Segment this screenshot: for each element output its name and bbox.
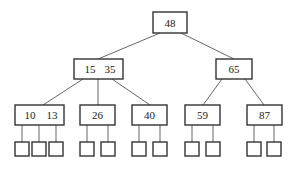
empty-leaf — [185, 142, 199, 156]
empty-leaf — [49, 142, 63, 156]
node-key: 35 — [105, 63, 117, 75]
empty-leaf — [15, 142, 29, 156]
root-key: 48 — [165, 17, 177, 29]
node-key: 26 — [92, 109, 104, 121]
node-10-13: 10 13 — [15, 105, 64, 125]
empty-leaf — [101, 142, 115, 156]
empty-leaf — [132, 142, 146, 156]
b-tree-diagram: 48 15 35 65 10 13 26 40 59 87 — [0, 0, 295, 174]
node-key: 15 — [85, 63, 97, 75]
node-key: 13 — [47, 109, 59, 121]
edge-65-87 — [245, 79, 264, 105]
edge-root-left — [98, 33, 160, 59]
empty-leaf — [32, 142, 46, 156]
empty-leaf — [247, 142, 261, 156]
edge-root-right — [181, 33, 234, 59]
empty-leaf — [267, 142, 281, 156]
node-87: 87 — [247, 105, 282, 125]
node-59: 59 — [185, 105, 220, 125]
node-key: 87 — [259, 109, 271, 121]
node-26: 26 — [80, 105, 115, 125]
node-key: 65 — [229, 63, 241, 75]
root-node: 48 — [153, 12, 187, 33]
node-40: 40 — [132, 105, 167, 125]
node-65: 65 — [216, 59, 252, 79]
node-15-35: 15 35 — [74, 59, 123, 79]
edge-1535-1013 — [43, 79, 83, 105]
node-key: 10 — [25, 109, 37, 121]
empty-leaf — [80, 142, 94, 156]
edge-65-59 — [203, 79, 222, 105]
node-key: 59 — [197, 109, 209, 121]
empty-leaf — [153, 142, 167, 156]
empty-leaves — [15, 142, 281, 156]
edge-1535-40 — [112, 79, 150, 105]
node-key: 40 — [144, 109, 156, 121]
empty-leaf — [206, 142, 220, 156]
